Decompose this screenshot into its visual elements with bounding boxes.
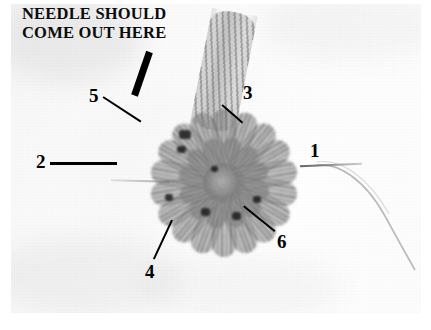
callout-leader-2 [50,162,117,165]
callout-label-4: 4 [145,262,155,281]
motif-gap-3 [165,194,173,201]
caption-text: NEEDLE SHOULD COME OUT HERE [22,4,252,42]
callout-label-3: 3 [243,83,253,102]
motif-gap-6 [253,196,261,203]
motif-gap-2 [177,146,186,153]
motif-gap-4 [201,208,210,216]
motif-gap-5 [232,212,241,220]
callout-label-2: 2 [36,152,46,171]
callout-label-1: 1 [310,141,320,160]
motif-center-hub [203,163,245,203]
callout-label-6: 6 [277,232,287,251]
callout-label-5: 5 [89,86,99,105]
thread-curve [311,144,421,274]
photograph [11,4,421,313]
figure-root: NEEDLE SHOULD COME OUT HERE 1 2 3 4 5 6 [0,0,431,330]
motif-gap-7 [211,166,218,172]
motif-gap-1 [179,130,191,139]
